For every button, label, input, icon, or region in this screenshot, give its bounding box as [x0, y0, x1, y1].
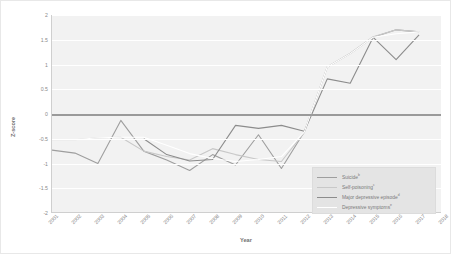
y-tick-label: -0.5: [8, 136, 48, 142]
series-line: [52, 30, 419, 171]
y-tick-label: 1: [8, 62, 48, 68]
legend-label: Major depressive episoded: [342, 194, 400, 201]
legend-item[interactable]: Depressive symptomse: [317, 202, 431, 212]
legend-swatch: [317, 207, 337, 208]
legend-label: Suicideb: [342, 174, 360, 181]
y-tick-label: 0.5: [8, 86, 48, 92]
legend-item[interactable]: Major depressive episoded: [317, 192, 431, 202]
gridline: [52, 65, 441, 66]
y-tick-label: -1.5: [8, 185, 48, 191]
legend-swatch: [317, 197, 337, 198]
y-tick-label: 0: [8, 111, 48, 117]
x-tick-label: 2005: [139, 213, 151, 225]
y-tick-label: 1.5: [8, 37, 48, 43]
chart-legend: SuicidebSelf-poisoningcMajor depressive …: [312, 167, 436, 214]
zero-line: [52, 114, 441, 116]
legend-item[interactable]: Self-poisoningc: [317, 182, 431, 192]
x-tick-label: 2001: [47, 213, 59, 225]
y-tick-label: 2: [8, 12, 48, 18]
x-tick-label: 2018: [437, 213, 449, 225]
x-tick-label: 2015: [368, 213, 380, 225]
x-tick-label: 2010: [253, 213, 265, 225]
legend-label: Self-poisoningc: [342, 184, 375, 191]
gridline: [52, 139, 441, 140]
gridline: [52, 164, 441, 165]
y-tick-label: -2: [8, 210, 48, 216]
gridline: [52, 40, 441, 41]
x-tick-label: 2006: [162, 213, 174, 225]
gridline: [52, 15, 441, 16]
legend-swatch: [317, 177, 337, 178]
x-axis-title: Year: [51, 237, 441, 243]
x-tick-label: 2009: [230, 213, 242, 225]
y-axis-title: Z-score: [10, 117, 16, 137]
x-tick-label: 2011: [276, 213, 288, 225]
series-line: [144, 35, 419, 161]
x-tick-label: 2004: [116, 213, 128, 225]
x-tick-label: 2013: [322, 213, 334, 225]
x-tick-label: 2002: [70, 213, 82, 225]
chart-figure: Z-score 21.510.50-0.5-1-1.5-2 2001200220…: [0, 0, 451, 254]
x-tick-label: 2003: [93, 213, 105, 225]
y-tick-label: -1: [8, 161, 48, 167]
x-tick-label: 2007: [185, 213, 197, 225]
series-line: [52, 30, 419, 162]
legend-label: Depressive symptomse: [342, 204, 392, 211]
legend-item[interactable]: Suicideb: [317, 172, 431, 182]
legend-swatch: [317, 187, 337, 188]
series-line: [52, 32, 419, 162]
x-tick-label: 2008: [207, 213, 219, 225]
x-tick-label: 2012: [299, 213, 311, 225]
x-tick-label: 2016: [391, 213, 403, 225]
x-tick-label: 2017: [414, 213, 426, 225]
x-tick-label: 2014: [345, 213, 357, 225]
gridline: [52, 89, 441, 90]
